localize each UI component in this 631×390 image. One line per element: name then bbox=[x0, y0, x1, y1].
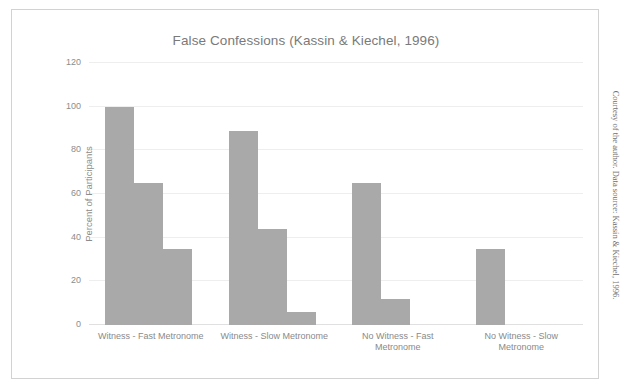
y-tick-label: 80 bbox=[47, 145, 81, 154]
x-tick-label-line: Metronome bbox=[336, 342, 460, 353]
x-tick-label: Witness - Fast Metronome bbox=[89, 331, 213, 342]
y-tick-label: 100 bbox=[47, 102, 81, 111]
x-tick-label-line: Witness - Fast Metronome bbox=[89, 331, 213, 342]
bar bbox=[381, 299, 410, 325]
x-tick-label-line: Metronome bbox=[460, 342, 584, 353]
y-axis-label: Percent of Participants bbox=[83, 146, 94, 242]
y-tick-label: 120 bbox=[47, 58, 81, 67]
bar bbox=[229, 131, 258, 325]
x-tick-label-line: No Witness - Slow bbox=[460, 331, 584, 342]
y-tick-label: 60 bbox=[47, 189, 81, 198]
x-tick-label: No Witness - FastMetronome bbox=[336, 331, 460, 353]
chart-title: False Confessions (Kassin & Kiechel, 199… bbox=[12, 33, 600, 48]
y-tick-label: 0 bbox=[47, 320, 81, 329]
chart-figure: False Confessions (Kassin & Kiechel, 199… bbox=[0, 0, 631, 390]
gridline bbox=[89, 149, 583, 150]
gridline bbox=[89, 237, 583, 238]
y-tick-label: 40 bbox=[47, 233, 81, 242]
credit-text: Courtesy of the author. Data source: Kas… bbox=[611, 91, 621, 300]
credit-note: Courtesy of the author. Data source: Kas… bbox=[604, 0, 628, 390]
x-tick-label-line: No Witness - Fast bbox=[336, 331, 460, 342]
x-tick-label: Witness - Slow Metronome bbox=[213, 331, 337, 342]
bar bbox=[258, 229, 287, 325]
x-tick-label: No Witness - SlowMetronome bbox=[460, 331, 584, 353]
bar bbox=[476, 249, 505, 325]
x-tick-label-line: Witness - Slow Metronome bbox=[213, 331, 337, 342]
plot-area: 020406080100120 Percent of Participants … bbox=[89, 63, 583, 325]
bar bbox=[105, 107, 134, 325]
bar bbox=[134, 183, 163, 325]
gridline bbox=[89, 193, 583, 194]
y-tick-label: 20 bbox=[47, 276, 81, 285]
bar bbox=[163, 249, 192, 325]
bar bbox=[287, 312, 316, 325]
gridline bbox=[89, 106, 583, 107]
chart-frame: False Confessions (Kassin & Kiechel, 199… bbox=[11, 9, 599, 379]
gridline bbox=[89, 62, 583, 63]
bar bbox=[352, 183, 381, 325]
